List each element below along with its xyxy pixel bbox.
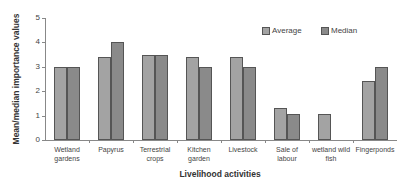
bar-median <box>375 67 388 140</box>
bar-median <box>243 67 256 140</box>
x-category-label: Fingerponds <box>353 145 397 154</box>
x-category-label: Papyrus <box>89 145 133 154</box>
bar-average <box>186 57 199 140</box>
bar-median <box>111 42 124 140</box>
x-tick <box>133 140 134 143</box>
x-category-label: wetland wildfish <box>307 145 355 163</box>
x-axis-title: Livelihood activities <box>140 169 300 179</box>
x-category-line: Kitchen <box>177 145 221 154</box>
bar-average <box>230 57 243 140</box>
x-tick <box>309 140 310 143</box>
x-tick <box>89 140 90 143</box>
bar-average <box>318 114 331 140</box>
legend-swatch-average <box>262 27 270 35</box>
legend-label-average: Average <box>272 26 302 35</box>
x-category-line: Fingerponds <box>353 145 397 154</box>
x-category-line: gardens <box>45 154 89 163</box>
x-category-line: Papyrus <box>89 145 133 154</box>
x-category-label: Livestock <box>221 145 265 154</box>
y-tick-label: 1 <box>30 111 40 120</box>
x-tick <box>353 140 354 143</box>
x-category-label: Sale oflabour <box>265 145 309 163</box>
legend-item-average: Average <box>262 26 302 35</box>
legend-item-median: Median <box>321 26 357 35</box>
y-axis-title: Mean/median importance values <box>11 9 25 149</box>
bar-average <box>98 57 111 140</box>
y-tick-label: 0 <box>30 135 40 144</box>
legend-label-median: Median <box>331 26 357 35</box>
x-category-line: garden <box>177 154 221 163</box>
x-category-label: Kitchengarden <box>177 145 221 163</box>
y-tick <box>42 116 45 117</box>
bar-median <box>199 67 212 140</box>
x-category-label: Terrestrialcrops <box>133 145 177 163</box>
x-category-line: Wetland <box>45 145 89 154</box>
bar-median <box>67 67 80 140</box>
x-tick <box>177 140 178 143</box>
y-tick <box>42 67 45 68</box>
x-category-line: fish <box>307 154 355 163</box>
x-category-line: crops <box>133 154 177 163</box>
y-tick <box>42 42 45 43</box>
x-category-line: wetland wild <box>307 145 355 154</box>
x-category-line: Livestock <box>221 145 265 154</box>
x-category-label: Wetlandgardens <box>45 145 89 163</box>
bar-median <box>287 114 300 140</box>
x-category-line: labour <box>265 154 309 163</box>
legend-swatch-median <box>321 27 329 35</box>
y-tick-label: 4 <box>30 37 40 46</box>
x-tick <box>265 140 266 143</box>
bar-average <box>362 81 375 140</box>
bar-median <box>155 55 168 140</box>
y-tick-label: 2 <box>30 86 40 95</box>
y-axis-line <box>45 18 46 140</box>
y-tick-label: 5 <box>30 13 40 22</box>
y-tick <box>42 18 45 19</box>
x-category-line: Sale of <box>265 145 309 154</box>
x-category-line: Terrestrial <box>133 145 177 154</box>
bar-average <box>54 67 67 140</box>
y-tick <box>42 140 45 141</box>
y-tick-label: 3 <box>30 62 40 71</box>
bar-average <box>274 108 287 140</box>
x-tick <box>221 140 222 143</box>
bar-average <box>142 55 155 140</box>
y-tick <box>42 91 45 92</box>
